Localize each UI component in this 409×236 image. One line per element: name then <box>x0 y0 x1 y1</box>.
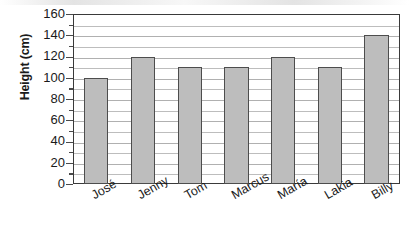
y-axis-title: Height (cm) <box>18 2 32 132</box>
y-axis-tick <box>66 120 73 121</box>
bar <box>224 67 248 184</box>
bars-group <box>73 14 400 184</box>
y-tick-label: 140 <box>31 28 65 41</box>
bar <box>318 67 342 184</box>
y-tick-label: 20 <box>31 156 65 169</box>
y-tick-label: 0 <box>31 177 65 190</box>
y-tick-label: 60 <box>31 113 65 126</box>
x-axis-tick-labels: JoséJennyTomMarcusMaríaLakiaBilly <box>73 184 400 236</box>
y-tick-label: 80 <box>31 92 65 105</box>
y-axis-tick <box>66 163 73 164</box>
y-tick-label: 160 <box>31 7 65 20</box>
y-axis-tick <box>66 184 73 185</box>
y-tick-label: 120 <box>31 49 65 62</box>
y-axis-tick <box>66 99 73 100</box>
bar <box>84 78 108 184</box>
bar <box>364 35 388 184</box>
y-axis-tick <box>66 78 73 79</box>
y-axis-tick <box>66 14 73 15</box>
bar-chart: Height (cm) 160 140 120 100 80 60 40 20 … <box>0 0 409 236</box>
bar <box>178 67 202 184</box>
y-tick-label: 40 <box>31 134 65 147</box>
y-axis-tick <box>66 142 73 143</box>
y-axis-tick <box>66 57 73 58</box>
y-axis-tick-labels: 160 140 120 100 80 60 40 20 0 <box>31 0 65 236</box>
y-tick-label: 100 <box>31 71 65 84</box>
y-axis-tick <box>66 35 73 36</box>
bar <box>131 57 155 185</box>
bar <box>271 57 295 185</box>
